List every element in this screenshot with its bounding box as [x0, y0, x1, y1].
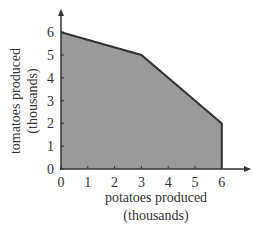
- y-tick-label: 2: [47, 116, 54, 131]
- y-tick-labels: 0123456: [47, 25, 54, 177]
- x-tick-label: 4: [165, 175, 172, 190]
- x-axis-arrow-icon: [244, 166, 251, 172]
- y-tick-label: 5: [47, 48, 54, 63]
- x-tick-label: 3: [138, 175, 145, 190]
- x-axis-label-line2: (thousands): [123, 208, 189, 224]
- y-axis-arrow-icon: [58, 9, 64, 16]
- y-tick-label: 3: [47, 94, 54, 109]
- shaded-region: [61, 32, 222, 169]
- y-tick-label: 1: [47, 139, 54, 154]
- x-tick-label: 0: [58, 175, 65, 190]
- y-tick-label: 6: [47, 25, 54, 40]
- y-tick-label: 0: [47, 162, 54, 177]
- x-axis-label-line1: potatoes produced: [105, 190, 207, 205]
- x-tick-label: 6: [218, 175, 225, 190]
- y-axis-label-line2: (thousands): [25, 68, 41, 134]
- x-tick-label: 1: [84, 175, 91, 190]
- feasible-region: [61, 32, 222, 169]
- x-tick-labels: 0123456: [58, 175, 226, 190]
- y-axis-label-line1: tomatoes produced: [8, 48, 23, 154]
- x-tick-label: 2: [111, 175, 118, 190]
- x-tick-label: 5: [192, 175, 199, 190]
- chart: 0123456 0123456 potatoes produced (thous…: [0, 0, 253, 228]
- y-tick-label: 4: [47, 71, 54, 86]
